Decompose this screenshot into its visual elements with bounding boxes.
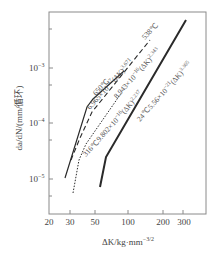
annot-538-temp: 538℃ xyxy=(140,20,160,41)
y-tick-label: 10−4 xyxy=(29,117,44,128)
svg-text:50: 50 xyxy=(91,217,101,227)
x-axis-title: ΔK/kg·mm−3/2 xyxy=(102,236,154,247)
x-axis-ticks xyxy=(70,210,183,214)
fatigue-crack-growth-chart: 10−3 10−4 10−5 da/dN/(mm/循环) 20 30 50 10… xyxy=(0,0,217,256)
svg-text:30: 30 xyxy=(66,217,76,227)
y-tick-label: 10−3 xyxy=(29,62,44,73)
annotations: 650℃ 6.965×10−17(ΔK)3.671 538℃ 8.943×10−… xyxy=(80,20,194,158)
y-tick-labels: 10−3 10−4 10−5 xyxy=(29,62,44,184)
y-axis-ticks xyxy=(49,29,53,196)
y-axis-title: da/dN/(mm/循环) xyxy=(13,86,24,151)
line-24c xyxy=(100,20,186,187)
svg-text:200: 200 xyxy=(156,217,170,227)
svg-text:20: 20 xyxy=(45,217,55,227)
x-tick-labels: 20 30 50 100 200 300 xyxy=(45,217,192,227)
svg-text:100: 100 xyxy=(121,217,135,227)
y-tick-label: 10−5 xyxy=(29,173,44,184)
svg-text:300: 300 xyxy=(177,217,191,227)
